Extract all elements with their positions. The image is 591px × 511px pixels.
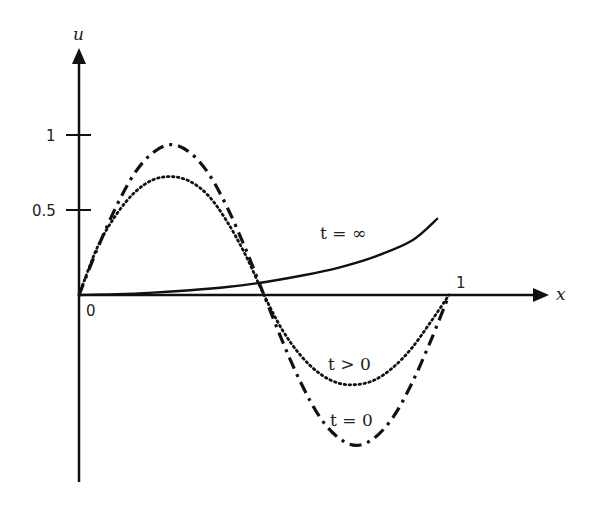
annotation-t-positive: t > 0 xyxy=(328,354,371,374)
y-tick-label-1: 1 xyxy=(46,127,56,145)
chart-canvas: u x 1 0.5 0 1 t = ∞ t > 0 t = 0 xyxy=(0,0,591,511)
origin-label: 0 xyxy=(86,302,96,320)
series-t-infinity xyxy=(79,218,438,295)
x-tick-label-1: 1 xyxy=(456,274,466,292)
y-axis-arrow-icon xyxy=(72,48,86,64)
y-axis-label: u xyxy=(73,24,84,44)
y-tick-label-0.5: 0.5 xyxy=(32,202,56,220)
x-axis-label: x xyxy=(556,284,566,304)
annotation-t-zero: t = 0 xyxy=(330,410,373,430)
series-t-positive xyxy=(79,177,449,385)
x-axis-arrow-icon xyxy=(533,288,549,302)
annotation-t-infinity: t = ∞ xyxy=(320,223,366,243)
